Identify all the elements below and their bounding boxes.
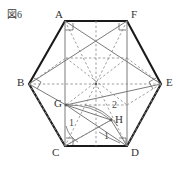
point-center (95, 83, 97, 85)
hexagon-diagram (0, 0, 191, 171)
line-inner-top-E (127, 58, 161, 84)
vertex-label-E: E (166, 77, 173, 88)
angle-label-2: 2 (112, 100, 117, 110)
vertex-label-D: D (131, 147, 139, 158)
vertex-label-C: C (52, 147, 59, 158)
point-H (110, 119, 113, 122)
point-label-H: H (115, 114, 123, 125)
vertex-label-B: B (17, 77, 24, 88)
figure-container: 図6 (0, 0, 191, 171)
angle-label-1-left: 1 (69, 118, 74, 128)
arc-angle-1-right (99, 132, 120, 143)
vertex-label-F: F (131, 9, 137, 20)
angle-label-1-right: 1 (104, 131, 109, 141)
point-label-G: G (54, 98, 62, 109)
line-B-inner-top (29, 58, 66, 84)
vertex-label-A: A (55, 9, 63, 20)
point-G (65, 104, 68, 107)
